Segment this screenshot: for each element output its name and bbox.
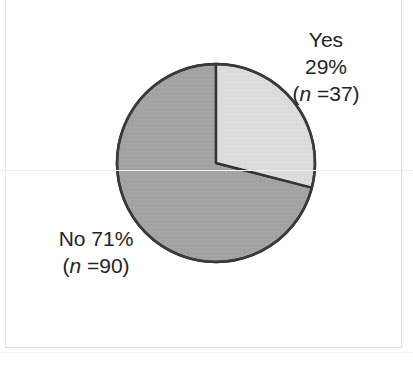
label-no-count: (n =90): [36, 253, 156, 280]
label-no: No 71% (n =90): [36, 226, 156, 280]
label-yes-count-symbol: n: [299, 82, 311, 105]
label-no-name-percent: No 71%: [36, 226, 156, 253]
label-yes-name: Yes: [268, 27, 384, 54]
figure-canvas: Yes 29% (n =37) No 71% (n =90): [0, 0, 413, 371]
label-no-count-value: =90): [81, 254, 129, 277]
label-yes-count: (n =37): [268, 81, 384, 108]
label-yes-percent: 29%: [268, 54, 384, 81]
label-yes: Yes 29% (n =37): [268, 27, 384, 108]
label-yes-count-value: =37): [311, 82, 359, 105]
label-no-count-symbol: n: [69, 254, 81, 277]
